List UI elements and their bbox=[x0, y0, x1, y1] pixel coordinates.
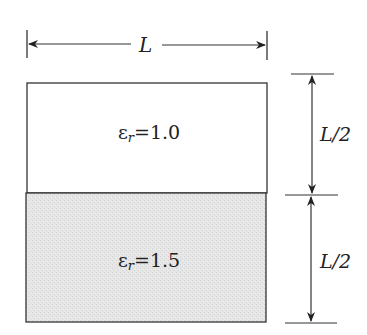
upper-height-label: L/2 bbox=[320, 125, 351, 144]
permittivity-value: 1.0 bbox=[150, 121, 180, 143]
permittivity-value: 1.5 bbox=[150, 249, 180, 271]
lower-height-label: L/2 bbox=[320, 252, 351, 271]
diagram-canvas: L εr=1.0 εr=1.5 L/2 L/2 bbox=[0, 0, 367, 335]
upper-permittivity-label: εr=1.0 bbox=[118, 123, 180, 144]
equals-sign: = bbox=[134, 249, 150, 271]
height-dimension bbox=[285, 74, 338, 323]
epsilon-symbol: ε bbox=[118, 249, 128, 271]
epsilon-symbol: ε bbox=[118, 121, 128, 143]
width-label: L bbox=[139, 35, 152, 55]
diagram-lines bbox=[0, 0, 367, 335]
equals-sign: = bbox=[134, 121, 150, 143]
lower-permittivity-label: εr=1.5 bbox=[118, 251, 180, 272]
